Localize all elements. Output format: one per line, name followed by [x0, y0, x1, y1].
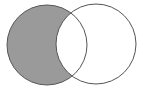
- venn-diagram: [0, 0, 143, 89]
